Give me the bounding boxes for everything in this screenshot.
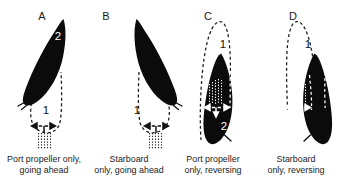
panel-a-label-inner: 2	[55, 30, 61, 42]
panel-c-letter: C	[204, 10, 212, 22]
panel-b-letter: B	[102, 10, 109, 22]
panel-d-caption-line2: only, reversing	[267, 165, 324, 175]
panel-a-caption-line1: Port propeller only,	[7, 154, 81, 164]
panel-c-caption-line1: Port propeller	[186, 154, 239, 164]
panel-c-label-outer: 1	[220, 38, 226, 50]
panel-a-caption-line2: going ahead	[20, 165, 69, 175]
panel-b-caption-line1: Starboard	[110, 154, 149, 164]
panel-a-label-outer: 1	[43, 104, 49, 116]
ship-maneuvering-diagram: A 1 2 B 1	[0, 0, 345, 180]
panel-b-label-inner: 2	[125, 30, 131, 42]
panel-b-label-outer: 1	[134, 104, 140, 116]
panel-a-letter: A	[38, 10, 46, 22]
panel-d-label-outer: 1	[305, 38, 311, 50]
panel-d-caption-line1: Starboard	[277, 154, 316, 164]
panel-d-label-inner: 2	[287, 120, 293, 132]
panel-c-caption-line2: only, reversing	[184, 165, 241, 175]
panel-b-caption-line2: only, going ahead	[94, 165, 163, 175]
panel-d-letter: D	[289, 10, 297, 22]
panel-c-label-inner: 2	[221, 120, 227, 132]
diagram-canvas: A 1 2 B 1	[0, 0, 345, 180]
